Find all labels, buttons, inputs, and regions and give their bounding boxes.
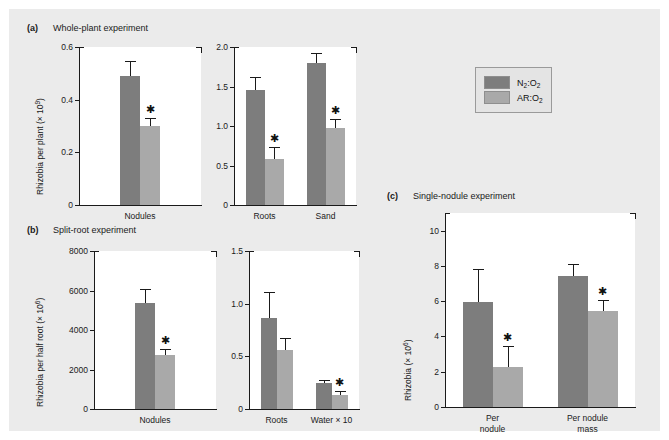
- x-axis: [249, 409, 360, 410]
- error-bar: [603, 300, 604, 311]
- error-bar: [285, 338, 286, 350]
- x-category-label: Roots: [265, 415, 287, 426]
- y-tick-label: 6: [434, 296, 439, 306]
- y-tick-label: 4: [434, 331, 439, 341]
- bar-N2O2-0: [463, 302, 493, 407]
- y-tick-label: 1.5: [216, 82, 228, 92]
- y-tick-label: 1.5: [231, 246, 243, 256]
- x-category-label: Per nodulemass: [567, 413, 608, 435]
- y-tick: [245, 304, 249, 305]
- significance-star: ✱: [146, 104, 155, 115]
- bar-ARO2-0: [277, 350, 293, 409]
- legend: N2:O2 AR:O2: [475, 67, 552, 113]
- y-axis: [79, 47, 80, 206]
- x-category-label: Pernodule: [480, 413, 506, 435]
- y-tick: [75, 205, 79, 206]
- error-bar: [150, 118, 151, 126]
- y-tick-label: 1.0: [231, 299, 243, 309]
- legend-item-aro2[interactable]: AR:O2: [484, 91, 543, 104]
- bar-ARO2-0: [155, 355, 175, 409]
- y-tick: [230, 205, 234, 206]
- y-tick-label: 0.5: [231, 351, 243, 361]
- y-tick: [75, 100, 79, 101]
- bar-N2O2-0: [120, 76, 140, 205]
- significance-star: ✱: [503, 332, 512, 343]
- error-bar-cap: [140, 289, 151, 290]
- axis-cap-left: [249, 251, 254, 252]
- error-bar-cap: [598, 300, 609, 301]
- bar-N2O2-1: [307, 63, 326, 205]
- y-tick-label: 2000: [69, 365, 88, 375]
- panel-a-tag: (a): [27, 23, 38, 33]
- panel-b-ylabel: Rhizobia per half root (× 106): [35, 298, 45, 407]
- y-tick-label: 2.0: [216, 42, 228, 52]
- y-tick: [230, 126, 234, 127]
- y-tick-label: 8: [434, 261, 439, 271]
- panel-b-title: Split-root experiment: [53, 225, 136, 235]
- bar-ARO2-0: [265, 159, 284, 205]
- error-bar: [255, 77, 256, 90]
- error-bar: [478, 269, 479, 303]
- y-axis: [445, 213, 446, 408]
- axis-cap-left: [445, 213, 450, 214]
- bar-ARO2-0: [140, 126, 160, 205]
- chart-c: 0246810✱Pernodule✱Per nodulemass: [445, 213, 635, 407]
- error-bar-cap: [280, 338, 291, 339]
- y-tick: [90, 251, 94, 252]
- bar-ARO2-1: [326, 128, 345, 205]
- y-tick: [230, 47, 234, 48]
- figure-canvas: (a) Whole-plant experiment 00.20.40.6✱No…: [9, 9, 660, 431]
- axis-edge-right: [216, 251, 217, 257]
- legend-item-n2o2[interactable]: N2:O2: [484, 76, 543, 89]
- y-tick: [441, 372, 445, 373]
- error-bar: [269, 292, 270, 318]
- error-bar: [316, 53, 317, 63]
- chart-a-left: 00.20.40.6✱Nodules: [79, 47, 201, 205]
- x-axis: [79, 205, 202, 206]
- axis-edge-right: [356, 47, 357, 53]
- x-category-label: Nodules: [124, 211, 155, 222]
- y-tick-label: 8000: [69, 246, 88, 256]
- error-bar: [274, 147, 275, 159]
- panel-c-title: Single-nodule experiment: [413, 191, 515, 201]
- y-tick: [90, 291, 94, 292]
- y-tick: [245, 409, 249, 410]
- error-bar-cap: [568, 264, 579, 265]
- y-tick: [245, 251, 249, 252]
- axis-edge-right: [201, 47, 202, 53]
- bar-ARO2-1: [332, 395, 348, 409]
- y-tick: [245, 356, 249, 357]
- y-tick-label: 6000: [69, 286, 88, 296]
- bar-N2O2-0: [261, 318, 277, 409]
- error-bar-cap: [503, 346, 514, 347]
- y-tick: [441, 336, 445, 337]
- significance-star: ✱: [270, 133, 279, 144]
- y-tick: [90, 409, 94, 410]
- x-axis: [445, 407, 636, 408]
- y-tick-label: 0: [68, 200, 73, 210]
- error-bar-cap: [160, 349, 171, 350]
- y-tick-label: 10: [430, 226, 439, 236]
- legend-label-aro2: AR:O2: [517, 93, 543, 103]
- bar-ARO2-1: [588, 311, 618, 407]
- significance-star: ✱: [335, 377, 344, 388]
- y-tick-label: 0.4: [61, 95, 73, 105]
- axis-edge-right: [635, 213, 636, 219]
- y-tick: [75, 47, 79, 48]
- error-bar: [508, 346, 509, 367]
- y-tick-label: 4000: [69, 325, 88, 335]
- y-tick: [90, 330, 94, 331]
- significance-star: ✱: [331, 105, 340, 116]
- panel-a-title: Whole-plant experiment: [53, 23, 148, 33]
- error-bar-cap: [311, 53, 322, 54]
- error-bar-cap: [125, 61, 136, 62]
- axis-cap-left: [234, 47, 239, 48]
- panel-c-ylabel: Rhizobia (× 106): [403, 339, 413, 401]
- x-category-label: Sand: [316, 211, 336, 222]
- x-axis: [94, 409, 217, 410]
- chart-b-right: 00.51.01.5Roots✱Water × 10: [249, 251, 359, 409]
- error-bar-cap: [473, 269, 484, 270]
- y-tick: [441, 301, 445, 302]
- chart-b-left: 02000400060008000✱Nodules: [94, 251, 216, 409]
- y-tick-label: 0: [223, 200, 228, 210]
